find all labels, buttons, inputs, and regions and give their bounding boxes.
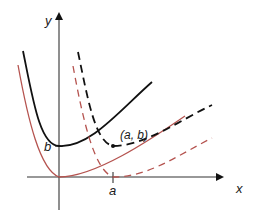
b-label: b [44, 139, 51, 154]
translation-diagram: y x b a (a, b) [0, 0, 255, 223]
x-axis-label: x [235, 181, 243, 196]
a-label: a [109, 183, 116, 198]
point-a-b [111, 144, 115, 148]
point-a-b-label: (a, b) [120, 128, 148, 142]
y-axis-label: y [44, 13, 53, 28]
original-curve-red-solid [18, 65, 185, 177]
